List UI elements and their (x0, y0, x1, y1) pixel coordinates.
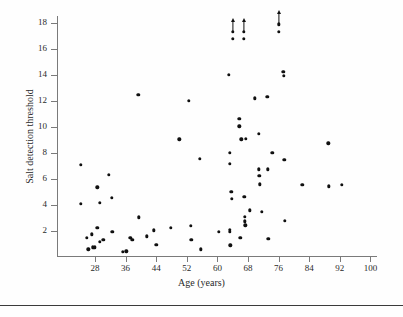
data-point (79, 163, 82, 166)
data-point (243, 220, 246, 223)
data-point (282, 74, 285, 77)
data-point (145, 234, 148, 237)
y-axis-tick (51, 231, 57, 232)
plot-area: 24681012141618283644526068768492100 (57, 16, 377, 257)
scatter-plot-figure: Salt detection threshold 246810121416182… (0, 0, 403, 317)
y-axis-tick-label: 8 (43, 148, 48, 157)
y-axis-tick (51, 179, 57, 180)
x-axis-tick-label: 92 (335, 264, 344, 273)
data-point (242, 195, 245, 198)
data-point (258, 182, 261, 185)
x-axis-tick (126, 257, 127, 262)
y-axis-tick-label: 10 (38, 122, 47, 131)
data-point (107, 173, 110, 176)
data-point (281, 70, 284, 73)
data-point (87, 247, 90, 250)
censored-arrow-head (242, 18, 246, 22)
x-axis-tick (279, 257, 280, 262)
data-point (137, 216, 140, 219)
data-point (231, 37, 234, 40)
y-axis-tick (51, 153, 57, 154)
x-axis-tick-label: 76 (274, 264, 283, 273)
data-point (229, 190, 232, 193)
x-axis-tick (248, 257, 249, 262)
x-axis-tick-label: 52 (182, 264, 191, 273)
x-axis-tick (95, 257, 96, 262)
data-point (257, 168, 260, 171)
y-axis-label: Salt detection threshold (24, 89, 35, 183)
data-point (243, 215, 246, 218)
data-point (85, 236, 88, 239)
data-point (90, 233, 93, 236)
data-point (187, 99, 190, 102)
data-point (125, 249, 128, 252)
data-point (137, 93, 140, 96)
data-point (265, 95, 268, 98)
data-point (260, 210, 263, 213)
data-point (98, 201, 101, 204)
x-axis-tick (370, 257, 371, 262)
data-point (131, 238, 134, 241)
data-point (267, 237, 270, 240)
x-axis-tick-label: 44 (152, 264, 161, 273)
data-point (228, 230, 231, 233)
data-point (271, 151, 274, 154)
data-point (96, 226, 99, 229)
y-axis-tick (51, 49, 57, 50)
data-point (79, 202, 82, 205)
censored-arrow-head (231, 18, 235, 22)
data-point (257, 132, 260, 135)
y-axis-tick-label: 4 (43, 200, 48, 209)
data-point (283, 158, 286, 161)
data-point (154, 243, 157, 246)
x-axis-tick (187, 257, 188, 262)
y-axis-tick-label: 14 (38, 70, 47, 79)
x-axis-tick-label: 84 (305, 264, 314, 273)
data-point (301, 183, 304, 186)
data-point (266, 168, 269, 171)
data-point (327, 142, 330, 145)
x-axis-tick (309, 257, 310, 262)
data-point (244, 137, 247, 140)
data-point (253, 97, 256, 100)
x-axis-label: Age (years) (178, 277, 225, 288)
x-axis-tick-label: 36 (121, 264, 130, 273)
data-point (190, 238, 193, 241)
x-axis-tick-label: 68 (244, 264, 253, 273)
y-axis-tick (51, 23, 57, 24)
censored-arrow-head (277, 10, 281, 14)
y-axis-caption: Salt detection threshold (8, 16, 28, 257)
data-point (258, 174, 261, 177)
data-point (237, 125, 240, 128)
data-point (199, 247, 202, 250)
data-point (230, 197, 233, 200)
data-point (93, 246, 96, 249)
data-point (239, 138, 242, 141)
y-axis-tick-label: 12 (38, 96, 47, 105)
censored-arrow-stem (232, 22, 233, 31)
x-axis-tick (217, 257, 218, 262)
data-point (102, 238, 105, 241)
y-axis-tick-label: 18 (38, 18, 47, 27)
censored-arrow-stem (243, 22, 244, 31)
data-point (177, 138, 180, 141)
x-axis-caption: Age (years) (0, 277, 403, 288)
y-axis-tick (51, 75, 57, 76)
y-axis-tick-label: 16 (38, 44, 47, 53)
data-point (283, 219, 286, 222)
y-axis-tick (51, 205, 57, 206)
data-point (228, 162, 231, 165)
data-point (152, 229, 155, 232)
data-point (239, 236, 242, 239)
x-axis-tick (156, 257, 157, 262)
data-point (229, 244, 232, 247)
data-point (217, 230, 220, 233)
x-axis-tick-label: 100 (364, 264, 378, 273)
y-axis-tick (51, 127, 57, 128)
data-point (327, 184, 330, 187)
data-point (244, 223, 247, 226)
data-point (96, 186, 99, 189)
data-point (110, 196, 113, 199)
data-point (277, 30, 280, 33)
data-point (198, 157, 201, 160)
